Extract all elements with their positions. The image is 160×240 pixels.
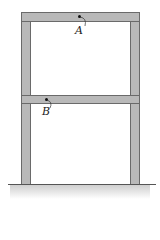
point-b-label: B xyxy=(42,106,50,117)
joint-left xyxy=(22,96,30,103)
ground-hatch xyxy=(10,185,150,199)
point-a-label: A xyxy=(75,25,83,36)
middle-beam xyxy=(21,95,140,104)
joint-right xyxy=(131,96,139,103)
